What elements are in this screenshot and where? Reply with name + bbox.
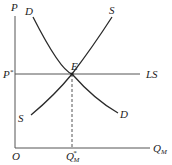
y-axis-label: P <box>10 1 18 13</box>
x-axis-label: QM <box>153 142 168 156</box>
equilibrium-quantity-label: Q*M <box>66 149 80 164</box>
equilibrium-point <box>71 73 74 76</box>
demand-label-top: D <box>24 5 33 17</box>
supply-label-top: S <box>109 4 115 16</box>
equilibrium-label: E <box>70 60 78 72</box>
demand-label-bottom: D <box>119 108 128 120</box>
supply-label-bottom: S <box>18 112 24 124</box>
long-run-supply-label: LS <box>145 68 158 80</box>
supply-demand-diagram: P D S E P* LS S D O Q*M QM <box>0 0 172 165</box>
origin-label: O <box>12 150 20 162</box>
equilibrium-price-label: P* <box>2 68 14 80</box>
